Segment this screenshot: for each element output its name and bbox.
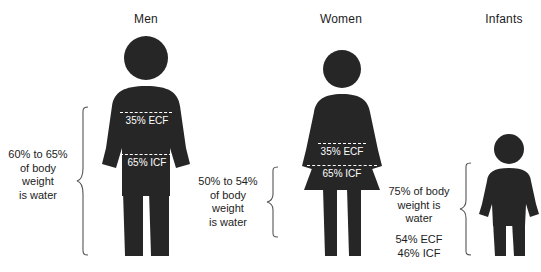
men-water-brace bbox=[76, 106, 90, 256]
infants-water-note-line-1: 75% of body bbox=[381, 185, 457, 199]
infants-water-note-line-3: water bbox=[381, 212, 457, 226]
men-water-note-line-4: is water bbox=[2, 189, 74, 203]
men-water-note-line-2: of body bbox=[2, 162, 74, 176]
men-ecf-divider bbox=[120, 112, 172, 113]
women-ecf-divider bbox=[318, 143, 366, 144]
women-water-brace bbox=[266, 166, 280, 238]
infants-compartment-note: 54% ECF 46% ICF bbox=[381, 233, 457, 260]
men-water-note-line-1: 60% to 65% bbox=[2, 148, 74, 162]
women-water-note-line-3: weight bbox=[192, 202, 264, 216]
women-water-note: 50% to 54% of body weight is water bbox=[192, 175, 264, 229]
men-icf-divider bbox=[120, 154, 172, 155]
men-ecf-label: 35% ECF bbox=[119, 115, 175, 126]
men-icf-label: 65% ICF bbox=[119, 157, 175, 168]
women-icf-label: 65% ICF bbox=[314, 168, 370, 179]
men-water-note-line-3: weight bbox=[2, 175, 74, 189]
men-fluid-compartments: 35% ECF 65% ICF bbox=[100, 36, 192, 258]
women-fluid-compartments: 35% ECF 65% ICF bbox=[292, 50, 392, 258]
infant-silhouette bbox=[478, 134, 540, 258]
infants-water-note: 75% of body weight is water bbox=[381, 185, 457, 226]
group-header-women: Women bbox=[308, 12, 374, 26]
infants-water-note-line-2: weight is bbox=[381, 199, 457, 213]
women-ecf-label: 35% ECF bbox=[314, 146, 370, 157]
women-water-note-line-2: of body bbox=[192, 189, 264, 203]
group-header-infants: Infants bbox=[473, 12, 535, 26]
group-header-men: Men bbox=[118, 12, 174, 26]
infants-water-brace bbox=[459, 162, 473, 256]
body-water-infographic: Men 35% ECF 65% ICF 60% to 65% of bbox=[0, 0, 541, 272]
women-water-note-line-1: 50% to 54% bbox=[192, 175, 264, 189]
infants-icf-label: 46% ICF bbox=[381, 247, 457, 261]
women-icf-divider bbox=[307, 165, 377, 166]
infants-ecf-label: 54% ECF bbox=[381, 233, 457, 247]
women-water-note-line-4: is water bbox=[192, 216, 264, 230]
men-water-note: 60% to 65% of body weight is water bbox=[2, 148, 74, 202]
